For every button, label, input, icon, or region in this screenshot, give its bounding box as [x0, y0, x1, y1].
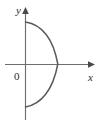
- figure-container: y x 0: [0, 0, 111, 126]
- y-axis-label: y: [15, 4, 21, 16]
- y-axis-arrow-icon: [22, 7, 29, 14]
- x-axis-arrow-icon: [88, 61, 95, 68]
- x-axis-label: x: [87, 71, 93, 83]
- parabola-figure-svg: y x 0: [0, 0, 111, 126]
- origin-label: 0: [14, 70, 20, 82]
